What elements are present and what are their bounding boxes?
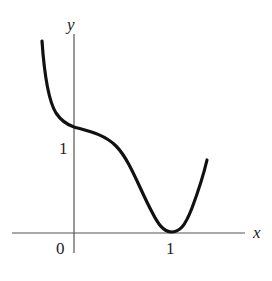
graph: y x 0 1 1 — [0, 0, 272, 281]
function-curve — [42, 41, 207, 232]
origin-label: 0 — [56, 239, 65, 258]
y-tick-1-label: 1 — [59, 139, 68, 158]
x-tick-1-label: 1 — [166, 239, 175, 258]
y-axis-label: y — [65, 15, 75, 34]
x-axis-label: x — [252, 223, 261, 242]
